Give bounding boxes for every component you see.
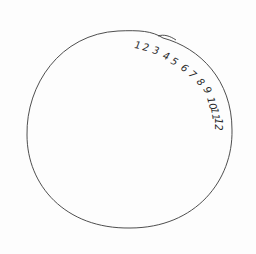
clock-number: 8 [195,76,207,88]
clock-number: 12 [213,118,224,131]
clock-number: 6 [179,62,191,75]
clock-number: 7 [187,68,199,81]
clock-number: 4 [161,50,171,63]
clock-number: 5 [169,55,180,68]
clock-number: 1 [134,39,142,51]
clock-numbers: 123456789101112 [134,39,224,131]
clock-number: 3 [151,44,160,56]
clock-number: 9 [201,85,214,96]
clock-outline [27,31,232,228]
clock-number: 2 [142,41,151,53]
clock-drawing: 123456789101112 [0,0,256,254]
